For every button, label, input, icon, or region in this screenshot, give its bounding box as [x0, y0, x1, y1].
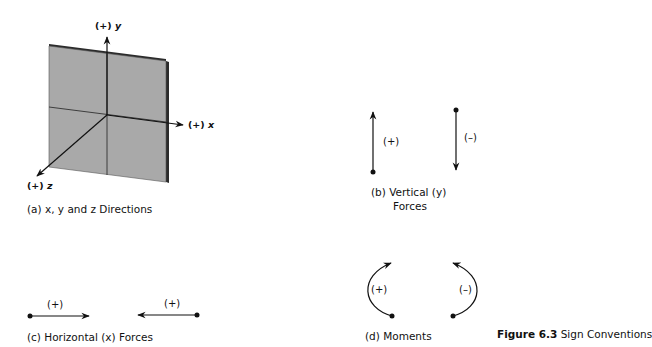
figure-caption: Figure 6.3 Sign Conventions	[497, 328, 652, 340]
panel-b-caption-line1: (b) Vertical (y)	[371, 186, 446, 198]
vertical-force-positive	[371, 112, 376, 175]
axis-y-sign: (+)	[95, 20, 112, 31]
panel-d-caption: (d) Moments	[365, 330, 432, 342]
horizontal-left-label: (+)	[164, 298, 180, 310]
axis-z-name: z	[47, 180, 53, 191]
vertical-negative-label: (–)	[464, 132, 477, 144]
panel-a-caption: (a) x, y and z Directions	[27, 203, 152, 215]
axis-z-label: (+) z	[27, 180, 53, 192]
horizontal-force-right	[28, 314, 90, 319]
moment-positive-label: (+)	[371, 284, 387, 296]
horizontal-force-left	[138, 313, 200, 318]
moment-negative-label: (–)	[459, 284, 472, 296]
vertical-force-negative	[454, 108, 459, 171]
panel-c-caption: (c) Horizontal (x) Forces	[27, 331, 153, 343]
figure-number: Figure 6.3	[497, 328, 557, 340]
axis-y-label: (+) y	[95, 20, 121, 32]
horizontal-right-label: (+)	[47, 299, 63, 311]
axis-x-name: x	[208, 119, 214, 130]
figure-title: Sign Conventions	[561, 328, 652, 340]
axis-x-label: (+) x	[188, 119, 214, 131]
panel-a-plate	[49, 44, 169, 183]
vertical-positive-label: (+)	[383, 136, 399, 148]
axis-x-sign: (+)	[188, 119, 205, 130]
axis-y-name: y	[115, 20, 121, 31]
panel-b-caption-line2: Forces	[393, 200, 427, 212]
axis-z-sign: (+)	[27, 180, 44, 191]
